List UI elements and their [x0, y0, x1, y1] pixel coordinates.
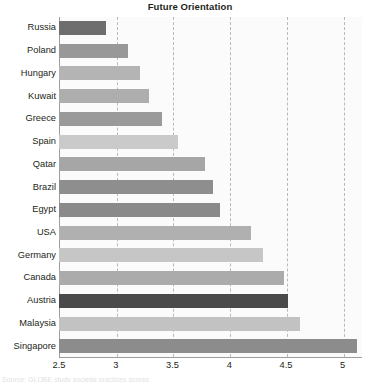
bar-kuwait[interactable] [59, 89, 149, 103]
x-tick-4-5: 4.5 [279, 360, 292, 370]
category-label-singapore: Singapore [0, 341, 56, 351]
category-label-poland: Poland [0, 45, 56, 55]
x-tick-2-5: 2.5 [53, 360, 66, 370]
category-label-egypt: Egypt [0, 204, 56, 214]
bar-austria[interactable] [59, 294, 288, 308]
bar-row[interactable] [59, 40, 362, 63]
bar-row[interactable] [59, 85, 362, 108]
bar-series [59, 17, 362, 358]
bar-greece[interactable] [59, 112, 162, 126]
bar-usa[interactable] [59, 226, 251, 240]
bar-row[interactable] [59, 153, 362, 176]
x-tick-3: 3 [113, 360, 118, 370]
bar-row[interactable] [59, 176, 362, 199]
category-axis-labels: RussiaPolandHungaryKuwaitGreeceSpainQata… [0, 17, 56, 358]
category-label-usa: USA [0, 227, 56, 237]
bar-qatar[interactable] [59, 157, 205, 171]
bar-row[interactable] [59, 290, 362, 313]
bar-egypt[interactable] [59, 203, 220, 217]
category-label-germany: Germany [0, 250, 56, 260]
bar-singapore[interactable] [59, 339, 357, 353]
x-tick-4: 4 [227, 360, 232, 370]
x-tick-3-5: 3.5 [166, 360, 179, 370]
category-label-austria: Austria [0, 295, 56, 305]
bar-row[interactable] [59, 222, 362, 245]
bar-canada[interactable] [59, 271, 284, 285]
category-label-spain: Spain [0, 136, 56, 146]
category-label-kuwait: Kuwait [0, 91, 56, 101]
bar-row[interactable] [59, 267, 362, 290]
category-label-brazil: Brazil [0, 182, 56, 192]
category-label-canada: Canada [0, 272, 56, 282]
bar-malaysia[interactable] [59, 317, 300, 331]
category-label-russia: Russia [0, 22, 56, 32]
bar-row[interactable] [59, 17, 362, 40]
x-tick-5: 5 [340, 360, 345, 370]
category-label-malaysia: Malaysia [0, 318, 56, 328]
bar-poland[interactable] [59, 44, 128, 58]
chart-title: Future Orientation [0, 1, 380, 12]
bar-row[interactable] [59, 108, 362, 131]
chart-container: Future Orientation RussiaPolandHungaryKu… [0, 0, 380, 384]
bar-row[interactable] [59, 199, 362, 222]
bar-spain[interactable] [59, 135, 178, 149]
bar-brazil[interactable] [59, 180, 213, 194]
bar-germany[interactable] [59, 248, 263, 262]
bar-russia[interactable] [59, 21, 106, 35]
clipped-caption: Source: GLOBE study societal practices s… [2, 376, 302, 382]
category-label-greece: Greece [0, 113, 56, 123]
bar-row[interactable] [59, 313, 362, 336]
bar-row[interactable] [59, 244, 362, 267]
category-label-qatar: Qatar [0, 159, 56, 169]
bar-row[interactable] [59, 131, 362, 154]
bar-row[interactable] [59, 335, 362, 358]
bar-row[interactable] [59, 62, 362, 85]
x-axis-tick-labels: 2.533.544.55 [0, 360, 380, 374]
bar-hungary[interactable] [59, 66, 140, 80]
category-label-hungary: Hungary [0, 68, 56, 78]
